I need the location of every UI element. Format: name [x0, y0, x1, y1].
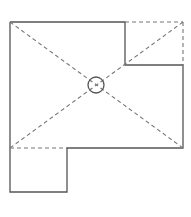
roof-plan-diagram	[0, 0, 191, 217]
diagonal-line-2	[10, 22, 183, 148]
building-outline	[10, 22, 183, 192]
